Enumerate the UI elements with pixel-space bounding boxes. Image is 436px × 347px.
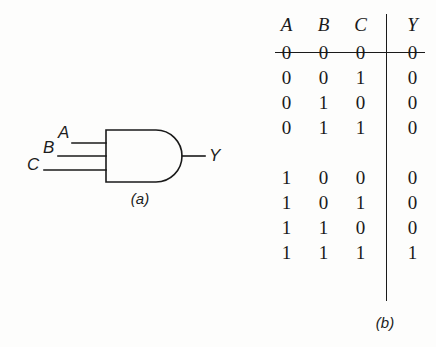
and-gate-body <box>106 130 182 182</box>
cell-a: 1 <box>268 215 305 240</box>
cell-b: 0 <box>305 40 342 65</box>
cell-c: 0 <box>342 215 379 240</box>
truth-table-panel: A B C Y 0 0 0 0 0 0 1 0 <box>250 0 436 347</box>
cell-y: 0 <box>379 215 431 240</box>
cell-b: 0 <box>305 65 342 90</box>
table-row: 0 1 0 0 <box>268 90 431 115</box>
cell-a: 0 <box>268 40 305 65</box>
gate-input-label-a: A <box>58 124 69 141</box>
cell-c: 1 <box>342 65 379 90</box>
table-row: 1 1 0 0 <box>268 215 431 240</box>
table-row: 1 1 1 1 <box>268 240 431 265</box>
figure-caption-a: (a) <box>110 190 170 207</box>
cell-b: 1 <box>305 90 342 115</box>
cell-a: 0 <box>268 90 305 115</box>
cell-b: 1 <box>305 215 342 240</box>
cell-c: 0 <box>342 165 379 190</box>
figure-root: A B C Y (a) A B C Y 0 0 0 0 <box>0 0 436 347</box>
cell-c: 1 <box>342 115 379 140</box>
table-row: 0 0 1 0 <box>268 65 431 90</box>
gate-diagram-panel: A B C Y (a) <box>0 0 250 347</box>
cell-c: 0 <box>342 90 379 115</box>
column-header-c: C <box>342 12 379 40</box>
column-header-b: B <box>305 12 342 40</box>
figure-caption-b: (b) <box>355 314 415 331</box>
cell-y: 0 <box>379 165 431 190</box>
table-row: 0 0 0 0 <box>268 40 431 65</box>
cell-b: 1 <box>305 240 342 265</box>
cell-b: 1 <box>305 115 342 140</box>
cell-y: 0 <box>379 190 431 215</box>
table-group-spacer <box>268 140 431 165</box>
truth-table: A B C Y 0 0 0 0 0 0 1 0 <box>268 12 431 265</box>
cell-a: 1 <box>268 240 305 265</box>
table-row: 1 0 1 0 <box>268 190 431 215</box>
cell-y: 0 <box>379 115 431 140</box>
table-header-row: A B C Y <box>268 12 431 40</box>
table-row: 1 0 0 0 <box>268 165 431 190</box>
gate-output-label-y: Y <box>209 147 220 164</box>
cell-y: 0 <box>379 90 431 115</box>
cell-y: 1 <box>379 240 431 265</box>
gate-input-label-c: C <box>27 156 39 173</box>
cell-b: 0 <box>305 190 342 215</box>
cell-c: 1 <box>342 240 379 265</box>
cell-y: 0 <box>379 40 431 65</box>
cell-c: 1 <box>342 190 379 215</box>
table-row: 0 1 1 0 <box>268 115 431 140</box>
gate-input-label-b: B <box>43 139 54 156</box>
cell-a: 0 <box>268 115 305 140</box>
cell-a: 1 <box>268 165 305 190</box>
column-header-a: A <box>268 12 305 40</box>
cell-a: 0 <box>268 65 305 90</box>
cell-y: 0 <box>379 65 431 90</box>
cell-b: 0 <box>305 165 342 190</box>
cell-c: 0 <box>342 40 379 65</box>
column-header-y: Y <box>379 12 431 40</box>
cell-a: 1 <box>268 190 305 215</box>
